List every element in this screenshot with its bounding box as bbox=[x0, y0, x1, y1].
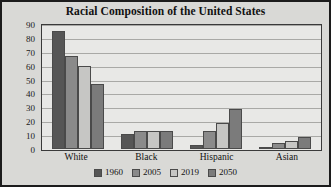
bar-white-2019[interactable] bbox=[78, 66, 91, 149]
bar-asian-1960[interactable] bbox=[259, 147, 272, 149]
bar-hispanic-2005[interactable] bbox=[203, 131, 216, 149]
legend-swatch-icon-1960 bbox=[94, 169, 102, 177]
chart-title: Racial Composition of the United States bbox=[2, 5, 329, 17]
bar-black-2005[interactable] bbox=[134, 131, 147, 149]
y-axis-labels: 0102030405060708090 bbox=[2, 24, 38, 151]
y-axis-tick-80: 80 bbox=[26, 34, 35, 43]
bar-asian-2005[interactable] bbox=[272, 143, 285, 149]
bar-asian-2019[interactable] bbox=[285, 141, 298, 149]
y-axis-tick-60: 60 bbox=[26, 62, 35, 71]
legend-label-2005: 2005 bbox=[143, 168, 161, 177]
bar-white-2050[interactable] bbox=[91, 84, 104, 149]
chart-container: Racial Composition of the United States … bbox=[0, 0, 331, 187]
y-axis-tick-90: 90 bbox=[26, 21, 35, 30]
legend-item-2050[interactable]: 2050 bbox=[208, 168, 237, 177]
bar-black-1960[interactable] bbox=[121, 134, 134, 149]
legend-label-1960: 1960 bbox=[105, 168, 123, 177]
bar-hispanic-2019[interactable] bbox=[216, 123, 229, 149]
y-axis-tick-70: 70 bbox=[26, 48, 35, 57]
chart-legend: 1960200520192050 bbox=[2, 168, 329, 177]
legend-label-2019: 2019 bbox=[181, 168, 199, 177]
bar-group-hispanic bbox=[190, 26, 242, 149]
legend-label-2050: 2050 bbox=[219, 168, 237, 177]
x-axis-label-black: Black bbox=[111, 152, 181, 166]
bar-asian-2050[interactable] bbox=[298, 137, 311, 150]
y-axis-tick-0: 0 bbox=[31, 146, 36, 155]
x-axis-label-hispanic: Hispanic bbox=[182, 152, 252, 166]
y-axis-tick-50: 50 bbox=[26, 76, 35, 85]
legend-item-2019[interactable]: 2019 bbox=[170, 168, 199, 177]
bar-white-1960[interactable] bbox=[52, 31, 65, 149]
x-axis-label-asian: Asian bbox=[252, 152, 322, 166]
bar-group-black bbox=[121, 26, 173, 149]
bar-white-2005[interactable] bbox=[65, 56, 78, 149]
y-axis-tick-10: 10 bbox=[26, 132, 35, 141]
legend-swatch-icon-2019 bbox=[170, 169, 178, 177]
legend-item-1960[interactable]: 1960 bbox=[94, 168, 123, 177]
bar-hispanic-1960[interactable] bbox=[190, 145, 203, 149]
bar-group-asian bbox=[259, 26, 311, 149]
bars-layer bbox=[43, 26, 320, 149]
legend-swatch-icon-2005 bbox=[132, 169, 140, 177]
plot-wrapper bbox=[41, 24, 322, 151]
y-axis-tick-20: 20 bbox=[26, 118, 35, 127]
y-axis-tick-30: 30 bbox=[26, 104, 35, 113]
legend-item-2005[interactable]: 2005 bbox=[132, 168, 161, 177]
x-axis-label-white: White bbox=[41, 152, 111, 166]
legend-swatch-icon-2050 bbox=[208, 169, 216, 177]
y-axis-tick-40: 40 bbox=[26, 90, 35, 99]
x-axis-labels: WhiteBlackHispanicAsian bbox=[41, 152, 322, 166]
bar-black-2050[interactable] bbox=[160, 131, 173, 149]
plot-area bbox=[41, 24, 322, 151]
bar-black-2019[interactable] bbox=[147, 131, 160, 149]
bar-group-white bbox=[52, 26, 104, 149]
bar-hispanic-2050[interactable] bbox=[229, 109, 242, 149]
